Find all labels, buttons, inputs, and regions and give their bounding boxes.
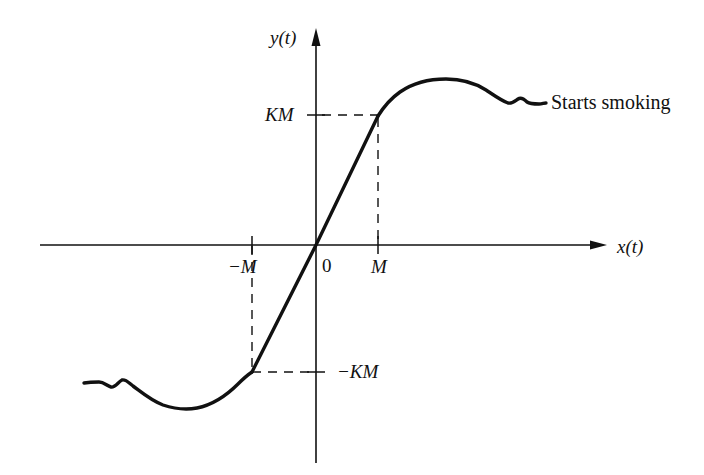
axes-group: [40, 28, 607, 463]
y-tick-label-km: KM: [265, 105, 294, 124]
curve-group: [84, 79, 546, 409]
plot-canvas: [0, 0, 704, 475]
curve-right-tail: [378, 79, 546, 116]
x-axis-arrowhead: [590, 241, 607, 250]
curve-left-tail: [84, 372, 252, 409]
x-tick-label-neg-m: −M: [228, 257, 257, 276]
curve-linear-segment: [252, 116, 378, 372]
x-axis-label: x(t): [617, 237, 643, 256]
y-axis-arrowhead: [312, 28, 321, 46]
y-axis-label: y(t): [270, 28, 296, 47]
y-tick-label-neg-km: −KM: [337, 362, 378, 381]
x-tick-label-m: M: [371, 257, 387, 276]
figure-root: y(t) x(t) KM −KM −M M 0 Starts smoking: [0, 0, 704, 475]
annotation-starts-smoking: Starts smoking: [551, 92, 670, 112]
origin-label: 0: [322, 256, 332, 275]
